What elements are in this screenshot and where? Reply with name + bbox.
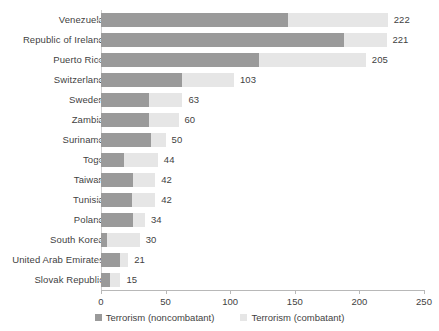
bar-row: United Arab Emirates21 bbox=[0, 250, 439, 270]
x-axis-tick bbox=[101, 290, 102, 294]
legend-swatch-icon bbox=[95, 314, 102, 321]
category-label: Slovak Republic bbox=[34, 270, 104, 290]
bar-segment-noncombatant bbox=[101, 53, 259, 67]
bar-value-label: 30 bbox=[146, 230, 157, 250]
bar-segment-noncombatant bbox=[101, 13, 288, 27]
x-axis-tick bbox=[359, 290, 360, 294]
stacked-bar bbox=[101, 213, 145, 227]
bar-segment-noncombatant bbox=[101, 193, 132, 207]
bar-segment-combatant bbox=[149, 93, 183, 107]
bar-value-label: 205 bbox=[372, 50, 388, 70]
bar-value-label: 21 bbox=[134, 250, 145, 270]
x-axis-tick-label: 200 bbox=[351, 296, 367, 307]
legend-label: Terrorism (combatant) bbox=[251, 312, 344, 323]
x-axis-tick bbox=[166, 290, 167, 294]
bar-value-label: 50 bbox=[172, 130, 183, 150]
bar-segment-noncombatant bbox=[101, 253, 120, 267]
stacked-bar bbox=[101, 93, 182, 107]
bar-value-label: 34 bbox=[151, 210, 162, 230]
bar-value-label: 60 bbox=[185, 110, 196, 130]
stacked-bar bbox=[101, 173, 155, 187]
bar-segment-combatant bbox=[124, 153, 158, 167]
category-label: Republic of Ireland bbox=[23, 30, 104, 50]
plot-area: Venezuela222Republic of Ireland221Puerto… bbox=[0, 10, 439, 290]
stacked-bar bbox=[101, 133, 166, 147]
bar-segment-noncombatant bbox=[101, 73, 182, 87]
stacked-bar bbox=[101, 233, 140, 247]
chart-legend: Terrorism (noncombatant)Terrorism (comba… bbox=[0, 312, 439, 323]
bar-segment-combatant bbox=[151, 133, 165, 147]
bar-segment-noncombatant bbox=[101, 213, 133, 227]
legend-item[interactable]: Terrorism (combatant) bbox=[240, 312, 344, 323]
bar-value-label: 103 bbox=[240, 70, 256, 90]
stacked-bar bbox=[101, 33, 387, 47]
x-axis-line bbox=[101, 290, 424, 291]
bar-segment-combatant bbox=[259, 53, 366, 67]
bar-row: Togo44 bbox=[0, 150, 439, 170]
bar-row: Slovak Republic15 bbox=[0, 270, 439, 290]
x-axis-tick-label: 100 bbox=[222, 296, 238, 307]
category-label: South Korea bbox=[50, 230, 104, 250]
x-axis-tick-label: 0 bbox=[98, 296, 103, 307]
bar-value-label: 44 bbox=[164, 150, 175, 170]
bar-segment-noncombatant bbox=[101, 113, 149, 127]
bar-row: Suriname50 bbox=[0, 130, 439, 150]
stacked-bar bbox=[101, 113, 179, 127]
bar-row: Puerto Rico205 bbox=[0, 50, 439, 70]
bar-row: Venezuela222 bbox=[0, 10, 439, 30]
x-axis-tick-label: 250 bbox=[416, 296, 432, 307]
stacked-bar-chart: Venezuela222Republic of Ireland221Puerto… bbox=[0, 0, 439, 331]
x-axis-tick bbox=[424, 290, 425, 294]
bar-segment-combatant bbox=[149, 113, 179, 127]
bar-segment-combatant bbox=[344, 33, 387, 47]
bar-row: Sweden63 bbox=[0, 90, 439, 110]
bar-segment-noncombatant bbox=[101, 93, 149, 107]
bar-segment-combatant bbox=[133, 213, 145, 227]
bar-segment-combatant bbox=[110, 273, 120, 287]
bar-value-label: 42 bbox=[161, 170, 172, 190]
bar-segment-combatant bbox=[288, 13, 387, 27]
bar-segment-noncombatant bbox=[101, 173, 133, 187]
bar-row: Switzerland103 bbox=[0, 70, 439, 90]
bar-row: Tunisia42 bbox=[0, 190, 439, 210]
legend-label: Terrorism (noncombatant) bbox=[106, 312, 215, 323]
bar-segment-combatant bbox=[182, 73, 234, 87]
bar-value-label: 221 bbox=[393, 30, 409, 50]
stacked-bar bbox=[101, 273, 120, 287]
bar-segment-combatant bbox=[133, 173, 155, 187]
stacked-bar bbox=[101, 193, 155, 207]
stacked-bar bbox=[101, 253, 128, 267]
bar-row: Taiwan42 bbox=[0, 170, 439, 190]
bar-row: Republic of Ireland221 bbox=[0, 30, 439, 50]
bar-segment-combatant bbox=[132, 193, 155, 207]
bar-segment-noncombatant bbox=[101, 153, 124, 167]
stacked-bar bbox=[101, 13, 388, 27]
bar-segment-noncombatant bbox=[101, 133, 151, 147]
bar-value-label: 63 bbox=[188, 90, 199, 110]
bar-value-label: 222 bbox=[394, 10, 410, 30]
bar-segment-noncombatant bbox=[101, 33, 344, 47]
x-axis-tick bbox=[295, 290, 296, 294]
stacked-bar bbox=[101, 53, 366, 67]
category-label: United Arab Emirates bbox=[12, 250, 104, 270]
bar-value-label: 15 bbox=[126, 270, 137, 290]
bar-row: Poland34 bbox=[0, 210, 439, 230]
bar-value-label: 42 bbox=[161, 190, 172, 210]
bar-segment-combatant bbox=[107, 233, 139, 247]
legend-item[interactable]: Terrorism (noncombatant) bbox=[95, 312, 215, 323]
legend-swatch-icon bbox=[240, 314, 247, 321]
x-axis-tick bbox=[230, 290, 231, 294]
bar-row: Zambia60 bbox=[0, 110, 439, 130]
bar-row: South Korea30 bbox=[0, 230, 439, 250]
bar-segment-noncombatant bbox=[101, 273, 110, 287]
stacked-bar bbox=[101, 153, 158, 167]
stacked-bar bbox=[101, 73, 234, 87]
bar-segment-combatant bbox=[120, 253, 128, 267]
x-axis-tick-label: 150 bbox=[287, 296, 303, 307]
x-axis-tick-label: 50 bbox=[160, 296, 171, 307]
